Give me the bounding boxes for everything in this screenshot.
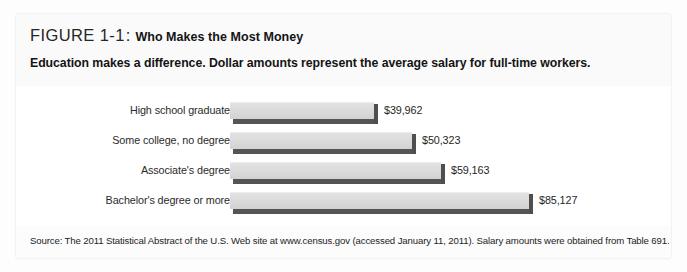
bar-shadow-side [529, 194, 533, 214]
bar-shadow-base [233, 149, 415, 154]
bar[interactable] [230, 192, 529, 209]
chart-row: Bachelor's degree or more $85,127 [16, 192, 671, 222]
category-label: Some college, no degree [16, 134, 230, 146]
chart-row: Some college, no degree $50,323 [16, 132, 671, 162]
bar-shadow-base [233, 119, 377, 124]
category-label: Associate's degree [16, 164, 230, 176]
category-label: High school graduate [16, 104, 230, 116]
bar-value-label: $59,163 [451, 164, 489, 176]
figure-source: Source: The 2011 Statistical Abstract of… [16, 226, 671, 258]
bar[interactable] [230, 162, 441, 179]
bar-value-label: $85,127 [539, 194, 577, 206]
bar-group: $59,163 [230, 162, 441, 188]
bar-shadow-side [374, 104, 378, 124]
figure-colon: : [126, 26, 131, 44]
bar-shadow-side [412, 134, 416, 154]
source-text: Source: The 2011 Statistical Abstract of… [30, 235, 670, 246]
category-label: Bachelor's degree or more [16, 194, 230, 206]
figure-panel: FIGURE 1-1:Who Makes the Most Money Educ… [16, 14, 671, 258]
bar-value-label: $50,323 [422, 134, 460, 146]
bar-shadow-side [441, 164, 445, 184]
figure-header: FIGURE 1-1:Who Makes the Most Money Educ… [16, 14, 671, 86]
bar-shadow-base [233, 209, 532, 214]
page-title: Who Makes the Most Money [135, 30, 303, 44]
scanned-page: FIGURE 1-1:Who Makes the Most Money Educ… [0, 0, 687, 272]
chart-row: Associate's degree $59,163 [16, 162, 671, 192]
figure-subtitle: Education makes a difference. Dollar amo… [30, 56, 590, 70]
bar-group: $85,127 [230, 192, 529, 218]
bar-value-label: $39,962 [384, 104, 422, 116]
chart-row: High school graduate $39,962 [16, 102, 671, 132]
bar[interactable] [230, 102, 374, 119]
bar[interactable] [230, 132, 412, 149]
figure-number: FIGURE 1-1 [30, 26, 125, 44]
bar-group: $50,323 [230, 132, 412, 158]
bar-chart: High school graduate $39,962 Some colleg… [16, 86, 671, 226]
figure-title-row: FIGURE 1-1:Who Makes the Most Money [30, 26, 303, 45]
bar-group: $39,962 [230, 102, 374, 128]
bar-shadow-base [233, 179, 444, 184]
